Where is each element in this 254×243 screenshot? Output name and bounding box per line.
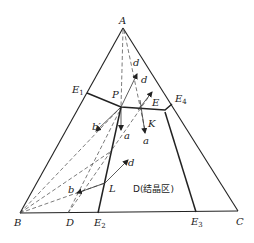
phase-diagram: A B C E1 E2 E3 E4 P E K L D d d a a b′ b… <box>0 0 254 243</box>
label-L: L <box>108 183 116 194</box>
labels: A B C E1 E2 E3 E4 P E K L D d d a a b′ b… <box>13 15 244 230</box>
label-E2: E2 <box>93 217 106 230</box>
label-a-right: a <box>143 135 149 146</box>
label-d-lower: d <box>128 157 134 168</box>
triangle-abc <box>20 28 238 213</box>
label-E3: E3 <box>190 216 203 229</box>
label-b-prime: b′ <box>92 121 101 132</box>
label-E4: E4 <box>174 93 187 106</box>
label-E: E <box>151 97 160 108</box>
region-label: D(结晶区) <box>133 183 174 194</box>
label-P: P <box>111 89 119 100</box>
label-a-left: a <box>124 130 130 141</box>
label-B: B <box>13 217 21 228</box>
label-K: K <box>147 118 156 129</box>
ternary-diagram-svg: A B C E1 E2 E3 E4 P E K L D d d a a b′ b… <box>0 0 254 243</box>
label-d-top1: d <box>133 57 139 68</box>
label-C: C <box>236 216 244 227</box>
label-A: A <box>118 15 126 26</box>
label-b: b <box>68 184 74 195</box>
label-D: D <box>65 217 74 228</box>
label-d-top2: d <box>141 74 147 85</box>
label-E1: E1 <box>71 84 84 97</box>
